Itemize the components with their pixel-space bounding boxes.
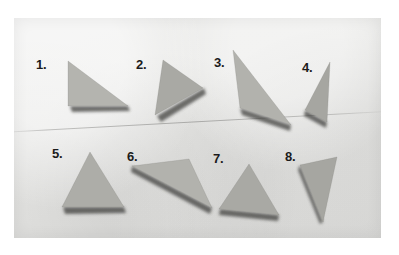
triangles-svg — [14, 18, 381, 238]
triangle-7 — [219, 164, 279, 215]
triangle-6 — [132, 159, 212, 208]
photo-print-area: 1. 2. 3. 4. 5. 6. 7. 8. — [14, 18, 381, 238]
triangle-label-5: 5. — [52, 147, 62, 160]
triangle-1 — [68, 61, 128, 106]
triangle-label-7: 7. — [213, 152, 223, 165]
triangle-8-group — [298, 157, 337, 224]
triangle-label-8: 8. — [285, 150, 295, 163]
triangle-5 — [62, 152, 124, 207]
triangle-label-4: 4. — [302, 61, 312, 74]
triangle-5-group — [62, 152, 126, 214]
triangle-2-group — [155, 60, 206, 122]
triangle-label-3: 3. — [214, 56, 224, 69]
triangle-label-1: 1. — [36, 58, 46, 71]
triangle-label-2: 2. — [136, 58, 146, 71]
triangle-1-shadow — [70, 106, 130, 112]
triangle-shape-layer — [14, 18, 381, 238]
triangle-6-group — [131, 159, 212, 214]
triangle-5-shadow — [63, 207, 126, 214]
triangle-3-group — [233, 50, 291, 131]
triangle-7-group — [219, 164, 279, 221]
triangle-label-6: 6. — [127, 150, 137, 163]
triangle-1-group — [68, 61, 130, 112]
screenshot-root: 1. 2. 3. 4. 5. 6. 7. 8. — [0, 0, 399, 255]
